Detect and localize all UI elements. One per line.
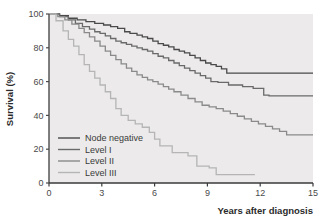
y-tick-label: 60 (33, 77, 43, 87)
chart-canvas: 02040608010003691215 Node negativeLevel … (0, 0, 329, 224)
legend-label-level-ii: Level II (85, 156, 114, 166)
y-tick-label: 40 (33, 111, 43, 121)
x-tick-label: 0 (46, 188, 51, 198)
legend-label-level-i: Level I (85, 145, 112, 155)
y-axis-title: Survival (%) (4, 72, 15, 126)
legend-label-node-negative: Node negative (85, 133, 143, 143)
y-tick-label: 100 (28, 9, 43, 19)
legend-label-level-iii: Level III (85, 168, 117, 178)
y-tick-label: 0 (38, 178, 43, 188)
y-tick-label: 20 (33, 144, 43, 154)
x-tick-label: 6 (152, 188, 157, 198)
x-tick-label: 12 (255, 188, 265, 198)
x-tick-label: 9 (205, 188, 210, 198)
x-axis-title: Years after diagnosis (217, 205, 313, 216)
y-tick-label: 80 (33, 43, 43, 53)
survival-chart-figure: 02040608010003691215 Node negativeLevel … (0, 0, 329, 224)
x-tick-label: 3 (99, 188, 104, 198)
x-tick-label: 15 (308, 188, 318, 198)
